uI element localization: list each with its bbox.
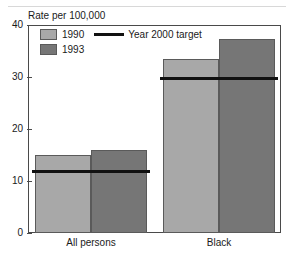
legend-label-target: Year 2000 target [128, 29, 202, 41]
target-line-black [160, 77, 278, 80]
bar-all-persons-1990[interactable] [35, 155, 91, 233]
top-divider-rule [8, 6, 286, 7]
legend: 1990 Year 2000 target 1993 [40, 28, 202, 58]
legend-item-1990[interactable]: 1990 Year 2000 target [40, 28, 202, 41]
legend-line-target-icon [94, 33, 124, 36]
x-axis-label-all-persons: All persons [35, 237, 147, 249]
legend-label-1993: 1993 [62, 44, 84, 56]
legend-label-1990: 1990 [62, 29, 84, 41]
y-tick-label-20: 20 [12, 124, 23, 134]
target-line-all-persons [32, 170, 150, 173]
legend-swatch-1990-icon [40, 29, 57, 40]
y-axis-title: Rate per 100,000 [28, 10, 105, 22]
legend-item-1993[interactable]: 1993 [40, 43, 202, 56]
bar-black-1993[interactable] [219, 39, 275, 233]
y-tick-label-10: 10 [12, 176, 23, 186]
bar-black-1990[interactable] [163, 59, 219, 233]
y-tick-label-40: 40 [12, 20, 23, 30]
y-tick-label-30: 30 [12, 72, 23, 82]
bar-all-persons-1993[interactable] [91, 150, 147, 233]
legend-swatch-1993-icon [40, 44, 57, 55]
y-tick-label-0: 0 [17, 228, 23, 238]
x-axis-label-black: Black [163, 237, 275, 249]
